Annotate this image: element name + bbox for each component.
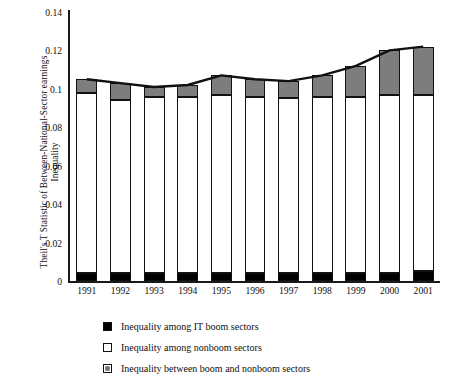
legend-swatch-icon xyxy=(103,364,112,373)
bar-column[interactable] xyxy=(211,12,232,281)
bar-segment-nonboom[interactable] xyxy=(245,97,266,274)
bar-segment-it-boom[interactable] xyxy=(245,273,266,281)
legend-swatch-icon xyxy=(103,343,112,352)
bar-column[interactable] xyxy=(177,12,198,281)
x-axis-tick-label: 2001 xyxy=(414,285,433,296)
y-axis-tick-label: 0.12 xyxy=(22,45,62,56)
y-axis-tick-label: 0 xyxy=(22,276,62,287)
y-axis-tick-label: 0.04 xyxy=(22,199,62,210)
bar-segment-between[interactable] xyxy=(345,66,366,97)
bar-segment-nonboom[interactable] xyxy=(379,95,400,274)
y-axis-tick-label: 0.08 xyxy=(22,122,62,133)
legend-item[interactable]: Inequality among IT boom sectors xyxy=(103,316,403,337)
legend-item-label: Inequality among IT boom sectors xyxy=(121,321,259,332)
bar-segment-nonboom[interactable] xyxy=(177,97,198,274)
bar-segment-between[interactable] xyxy=(312,75,333,96)
bar-segment-it-boom[interactable] xyxy=(379,273,400,281)
legend-item-label: Inequality among nonboom sectors xyxy=(121,342,262,353)
legend-item-label: Inequality between boom and nonboom sect… xyxy=(121,363,310,374)
bar-segment-it-boom[interactable] xyxy=(312,273,333,281)
x-axis-tick-label: 1998 xyxy=(313,285,332,296)
bar-segment-it-boom[interactable] xyxy=(177,273,198,281)
bar-column[interactable] xyxy=(245,12,266,281)
bar-segment-between[interactable] xyxy=(245,79,266,96)
bar-segment-between[interactable] xyxy=(177,85,198,97)
bar-segment-between[interactable] xyxy=(379,50,400,94)
bar-segment-nonboom[interactable] xyxy=(76,93,97,274)
bar-segment-between[interactable] xyxy=(76,79,97,92)
x-axis-tick-labels: 1991199219931994199519961997199819992000… xyxy=(70,285,440,301)
plot-area: 00.020.040.060.080.10.120.14 xyxy=(68,12,440,281)
bar-segment-nonboom[interactable] xyxy=(211,95,232,274)
bar-segment-between[interactable] xyxy=(110,83,131,100)
x-axis-tick-label: 1994 xyxy=(178,285,197,296)
bar-segment-between[interactable] xyxy=(278,81,299,98)
bar-segment-it-boom[interactable] xyxy=(211,273,232,281)
bar-segment-it-boom[interactable] xyxy=(278,273,299,281)
legend-item[interactable]: Inequality between boom and nonboom sect… xyxy=(103,358,403,379)
x-axis-tick-label: 1992 xyxy=(111,285,130,296)
bar-segment-it-boom[interactable] xyxy=(110,273,131,281)
x-axis-tick-label: 2000 xyxy=(380,285,399,296)
bar-column[interactable] xyxy=(312,12,333,281)
bar-segment-it-boom[interactable] xyxy=(76,273,97,281)
y-axis-tick-label: 0.06 xyxy=(22,160,62,171)
bar-column[interactable] xyxy=(379,12,400,281)
x-axis-tick-label: 1991 xyxy=(77,285,96,296)
bar-column[interactable] xyxy=(413,12,434,281)
y-axis-tick-label: 0.02 xyxy=(22,237,62,248)
bar-segment-nonboom[interactable] xyxy=(312,97,333,274)
x-axis-tick-label: 1995 xyxy=(212,285,231,296)
bar-column[interactable] xyxy=(76,12,97,281)
bar-column[interactable] xyxy=(144,12,165,281)
x-axis-tick-label: 1999 xyxy=(346,285,365,296)
x-axis-line xyxy=(68,281,440,283)
bar-segment-nonboom[interactable] xyxy=(413,95,434,272)
bar-segment-between[interactable] xyxy=(144,87,165,97)
bar-segment-nonboom[interactable] xyxy=(110,100,131,273)
bar-column[interactable] xyxy=(345,12,366,281)
y-axis-tick-label: 0.1 xyxy=(22,83,62,94)
chart-legend: Inequality among IT boom sectorsInequali… xyxy=(103,316,403,379)
bar-column[interactable] xyxy=(110,12,131,281)
bar-group xyxy=(70,12,440,281)
bar-segment-nonboom[interactable] xyxy=(144,97,165,274)
bar-segment-it-boom[interactable] xyxy=(413,271,434,281)
y-axis-tick-label: 0.14 xyxy=(22,7,62,18)
legend-item[interactable]: Inequality among nonboom sectors xyxy=(103,337,403,358)
bar-segment-it-boom[interactable] xyxy=(345,273,366,281)
legend-swatch-icon xyxy=(103,322,112,331)
bar-segment-between[interactable] xyxy=(211,75,232,94)
chart-figure: Theil's T Statistic of Between-National-… xyxy=(0,0,464,382)
bar-column[interactable] xyxy=(278,12,299,281)
x-axis-tick-label: 1997 xyxy=(279,285,298,296)
x-axis-tick-label: 1993 xyxy=(144,285,163,296)
bar-segment-nonboom[interactable] xyxy=(345,97,366,274)
bar-segment-nonboom[interactable] xyxy=(278,98,299,273)
bar-segment-between[interactable] xyxy=(413,47,434,95)
x-axis-tick-label: 1996 xyxy=(245,285,264,296)
bar-segment-it-boom[interactable] xyxy=(144,273,165,281)
